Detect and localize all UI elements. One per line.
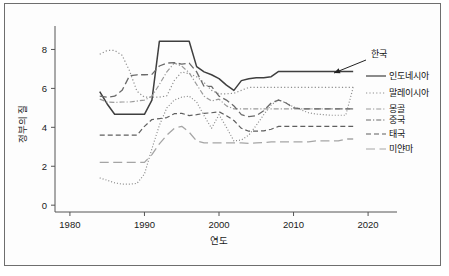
series-line: [100, 87, 353, 184]
annotation-korea: 한국: [334, 49, 387, 73]
chart-figure: 02468 19801990200020102020 정부의 질 연도 인도네시…: [0, 0, 449, 276]
legend-label: 태국: [389, 129, 405, 139]
annotation-label-korea: 한국: [371, 49, 387, 59]
y-tick-label: 6: [42, 83, 47, 94]
y-axis-tick-labels: 02468: [42, 44, 47, 211]
series-line: [100, 112, 353, 135]
y-tick-label: 8: [42, 44, 47, 55]
x-tick-label: 2020: [358, 219, 379, 230]
x-tick-label: 2000: [208, 219, 229, 230]
legend-label: 인도네시아: [389, 71, 430, 81]
y-tick-label: 2: [42, 161, 47, 172]
series-line: [100, 126, 353, 162]
data-series-group: [100, 41, 353, 184]
x-axis-tick-labels: 19801990200020102020: [59, 219, 378, 230]
x-axis-title: 연도: [210, 235, 228, 246]
legend-label: 몽골: [389, 104, 405, 114]
series-line: [100, 50, 353, 97]
line-chart-plot: 02468 19801990200020102020 정부의 질 연도 인도네시…: [0, 0, 449, 276]
y-tick-label: 4: [42, 122, 47, 133]
axes-group: [51, 26, 397, 216]
x-tick-label: 1990: [134, 219, 155, 230]
y-axis-title: 정부의 질: [17, 105, 28, 144]
series-line: [100, 41, 353, 114]
y-tick-label: 0: [42, 200, 47, 211]
x-axis-ticks: [70, 212, 368, 216]
x-tick-label: 2010: [283, 219, 304, 230]
legend-label: 중국: [389, 115, 405, 125]
legend-label: 말레이시아: [389, 87, 430, 98]
x-tick-label: 1980: [59, 219, 80, 230]
chart-legend: 인도네시아말레이시아몽골중국태국미얀마: [366, 71, 430, 154]
y-axis-ticks: [51, 49, 55, 205]
legend-label: 미얀마: [389, 143, 414, 154]
